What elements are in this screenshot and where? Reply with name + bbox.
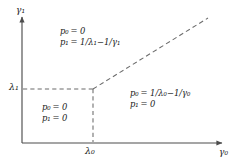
upper-region-annotation: p₀ = 0 p₁ = 1/λ₁−1/γ₁ bbox=[60, 27, 120, 47]
x-axis-label: γ₀ bbox=[219, 148, 228, 157]
lower-left-region-annotation: p₀ = 0 p₁ = 0 bbox=[42, 103, 67, 123]
x-axis-tick-label-lambda0: λ₀ bbox=[85, 146, 95, 156]
upper-region-p0-equation: p₀ = 0 bbox=[60, 27, 120, 36]
right-region-annotation: p₀ = 1/λ₀−1/γ₀ p₁ = 0 bbox=[130, 89, 190, 109]
lower-left-region-p1-equation: p₁ = 0 bbox=[42, 114, 67, 123]
diagram-canvas bbox=[0, 0, 236, 168]
phase-diagram-figure: γ₁ γ₀ λ₁ λ₀ p₀ = 0 p₁ = 1/λ₁−1/γ₁ p₀ = 0… bbox=[0, 0, 236, 168]
right-region-p1-equation: p₁ = 0 bbox=[130, 100, 190, 109]
y-axis-tick-label-lambda1: λ₁ bbox=[9, 82, 19, 92]
lower-left-region-p0-equation: p₀ = 0 bbox=[42, 103, 67, 112]
y-axis-label: γ₁ bbox=[16, 6, 25, 15]
upper-region-p1-equation: p₁ = 1/λ₁−1/γ₁ bbox=[60, 38, 120, 47]
right-region-p0-equation: p₀ = 1/λ₀−1/γ₀ bbox=[130, 89, 190, 98]
